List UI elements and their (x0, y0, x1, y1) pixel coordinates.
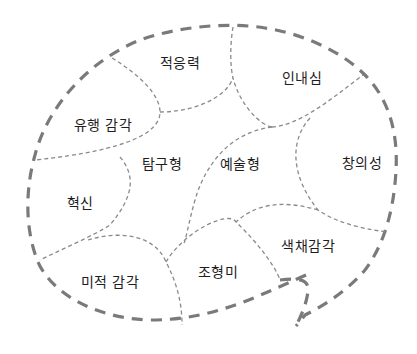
divider-adaptability-patience (231, 27, 272, 127)
region-label-artistic: 예술형 (220, 153, 261, 173)
region-label-exploratory: 탐구형 (142, 153, 183, 173)
region-label-trend-sense: 유행 감각 (74, 114, 133, 134)
region-label-color-sense: 색채감각 (281, 235, 335, 255)
region-label-creativity: 창의성 (342, 152, 383, 172)
divider-artistic-creativity (296, 118, 388, 232)
divider-exploratory-artistic (184, 127, 272, 243)
region-label-innovation: 혁신 (67, 192, 94, 212)
region-label-patience: 인내심 (282, 67, 323, 87)
region-diagram (0, 0, 417, 354)
region-label-formative-beauty: 조형미 (198, 261, 239, 281)
divider-adaptability-bottom (160, 78, 233, 112)
divider-adaptability-trend (35, 58, 160, 160)
region-label-aesthetic-sense: 미적 감각 (81, 271, 140, 291)
region-label-adaptability: 적응력 (160, 52, 201, 72)
divider-artistic-color (236, 204, 318, 222)
